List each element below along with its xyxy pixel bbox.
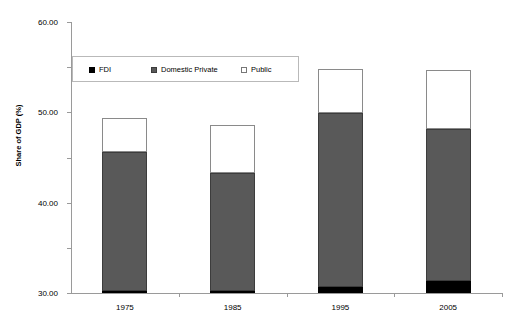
x-axis-tick-label: 1985 — [224, 303, 242, 312]
y-axis-tick: 40.00 — [67, 112, 71, 113]
y-axis-title: Share of GDP (%) — [14, 81, 23, 191]
y-axis-tick: 10.00 — [67, 248, 71, 249]
bar-stack-1995[interactable] — [318, 69, 363, 293]
y-axis-tick: 20.00 — [67, 203, 71, 204]
y-axis-tick: 60.00 — [67, 22, 71, 23]
x-axis-tick-label: 1975 — [116, 303, 134, 312]
legend-swatch-public-icon — [241, 67, 247, 73]
bar-segment-domestic-private-2005[interactable] — [426, 129, 471, 281]
x-axis-tick-label: 2005 — [439, 303, 457, 312]
x-axis-tick-label: 1995 — [331, 303, 349, 312]
y-axis-tick-label: 40.00 — [38, 198, 58, 207]
x-axis-tick — [287, 293, 288, 297]
legend-item-fdi: FDI — [89, 65, 111, 74]
stacked-bar-chart: Share of GDP (%) 0.0010.0020.0030.0040.0… — [0, 0, 513, 326]
legend-item-domestic-private: Domestic Private — [151, 65, 218, 74]
bar-segment-domestic-private-1995[interactable] — [318, 113, 363, 287]
legend-swatch-fdi-icon — [89, 67, 95, 73]
bar-segment-fdi-1995[interactable] — [318, 287, 363, 293]
bar-stack-2005[interactable] — [426, 70, 471, 293]
chart-legend: FDI Domestic Private Public — [72, 56, 299, 82]
y-axis-tick: 30.00 — [67, 158, 71, 159]
y-axis-tick: 50.00 — [67, 67, 71, 68]
y-axis-tick-label: 30.00 — [38, 289, 58, 298]
y-axis-tick-label: 50.00 — [38, 108, 58, 117]
legend-label-fdi: FDI — [99, 65, 111, 74]
bar-segment-public-1995[interactable] — [318, 69, 363, 113]
legend-label-domestic-private: Domestic Private — [161, 65, 218, 74]
x-axis-tick — [394, 293, 395, 297]
x-axis-tick — [179, 293, 180, 297]
legend-label-public: Public — [251, 65, 271, 74]
bar-segment-fdi-1985[interactable] — [210, 291, 255, 293]
y-axis-tick-label: 60.00 — [38, 18, 58, 27]
bar-segment-domestic-private-1975[interactable] — [102, 152, 147, 291]
bar-segment-fdi-2005[interactable] — [426, 281, 471, 293]
x-axis-tick — [502, 293, 503, 297]
bar-stack-1985[interactable] — [210, 125, 255, 293]
bar-segment-public-2005[interactable] — [426, 70, 471, 129]
bar-segment-public-1985[interactable] — [210, 125, 255, 172]
y-axis-tick: 0.00 — [67, 293, 71, 294]
bar-segment-domestic-private-1985[interactable] — [210, 173, 255, 291]
bar-segment-fdi-1975[interactable] — [102, 291, 147, 293]
bar-stack-1975[interactable] — [102, 118, 147, 293]
legend-item-public: Public — [241, 65, 271, 74]
bar-segment-public-1975[interactable] — [102, 118, 147, 152]
legend-swatch-domestic-private-icon — [151, 67, 157, 73]
